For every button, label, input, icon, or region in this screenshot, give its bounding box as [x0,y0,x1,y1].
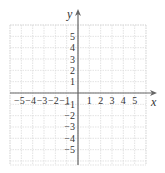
y-tick-label: −1 [64,99,75,110]
x-tick-label: −5 [14,95,25,106]
axes [10,9,157,165]
x-tick-label: −2 [48,95,59,106]
y-tick-label: −5 [64,144,75,155]
x-tick-label: 1 [87,95,92,106]
x-tick-label: 3 [109,95,114,106]
coordinate-plane: x y −5−4−3−2−112345 54321−1−2−3−4−5 [0,0,165,173]
x-tick-label: 5 [132,95,137,106]
y-tick-label: 5 [70,31,75,42]
y-axis-label: y [66,7,73,21]
y-tick-label: −4 [64,133,75,144]
y-tick-label: 2 [70,65,75,76]
y-tick-label: 1 [70,76,75,87]
x-tick-label: −4 [25,95,36,106]
y-tick-label: 3 [70,54,75,65]
y-tick-label: 4 [70,42,75,53]
y-tick-label: −3 [64,121,75,132]
x-tick-label: 2 [98,95,103,106]
x-axis-label: x [150,95,157,109]
x-tick-label: −3 [37,95,48,106]
y-tick-label: −2 [64,110,75,121]
x-tick-label: 4 [121,95,126,106]
